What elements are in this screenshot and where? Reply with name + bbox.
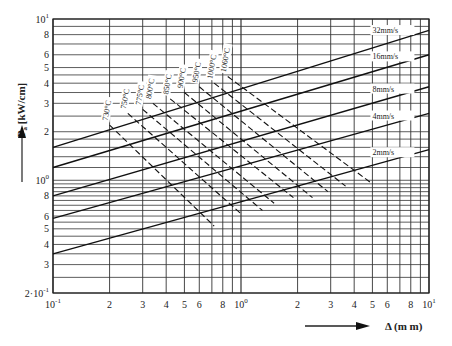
speed-label: 8mm/s xyxy=(372,85,394,94)
y-tick-label: 8 xyxy=(44,29,49,40)
series-labels: 32mm/s16mm/s8mm/s4mm/s2mm/s730°C750°C775… xyxy=(101,25,415,157)
y-tick-label: 101 xyxy=(36,12,50,25)
x-tick-label: 8 xyxy=(408,299,413,310)
x-tick-label: 2 xyxy=(107,299,112,310)
x-tick-label: 3 xyxy=(140,299,145,310)
x-axis-title: Δ (m m) xyxy=(385,320,423,333)
x-tick-label: 10-1 xyxy=(45,297,61,310)
speed-label: 32mm/s xyxy=(372,26,398,35)
y-tick-label: 2·10-1 xyxy=(25,286,50,299)
y-tick-label: 100 xyxy=(36,173,50,186)
x-tick-label: 4 xyxy=(164,299,169,310)
x-tick-labels: 10-1234568100234568101 xyxy=(45,297,436,310)
temperature-label: 730°C xyxy=(101,100,113,122)
series-line xyxy=(214,83,345,186)
x-tick-label: 3 xyxy=(328,299,333,310)
y-tick-label: 8 xyxy=(44,190,49,201)
speed-label: 16mm/s xyxy=(372,52,398,61)
x-tick-label: 6 xyxy=(385,299,390,310)
arrow-right-icon xyxy=(305,322,370,330)
speed-label: 4mm/s xyxy=(372,112,394,121)
y-tick-label: 4 xyxy=(44,239,49,250)
x-tick-label: 5 xyxy=(182,299,187,310)
temperature-label: 850°C xyxy=(161,73,173,95)
temperature-label: 800°C xyxy=(144,78,156,100)
y-tick-labels: 2·10-134568100234568101 xyxy=(25,12,50,299)
temperature-label: 950°C xyxy=(190,61,202,83)
x-tick-label: 4 xyxy=(352,299,357,310)
log-log-chart: 32mm/s16mm/s8mm/s4mm/s2mm/s730°C750°C775… xyxy=(0,0,452,346)
y-tick-label: 5 xyxy=(44,62,49,73)
x-tick-label: 6 xyxy=(197,299,202,310)
x-tick-label: 100 xyxy=(234,297,248,310)
y-tick-label: 3 xyxy=(44,98,49,109)
temperature-label: 750°C xyxy=(119,88,131,110)
y-tick-label: 2 xyxy=(44,126,49,137)
temperature-label: 900°C xyxy=(176,67,188,89)
x-tick-label: 8 xyxy=(220,299,225,310)
y-tick-label: 3 xyxy=(44,259,49,270)
y-tick-label: 5 xyxy=(44,223,49,234)
temperature-label: 1060°C xyxy=(219,47,232,73)
series-line xyxy=(153,103,274,203)
y-tick-label: 4 xyxy=(44,78,49,89)
temperature-label: 1000°C xyxy=(205,54,218,80)
y-tick-label: 6 xyxy=(44,49,49,60)
x-tick-label: 101 xyxy=(422,297,436,310)
y-tick-label: 6 xyxy=(44,211,49,222)
x-tick-label: 2 xyxy=(295,299,300,310)
speed-label: 2mm/s xyxy=(372,148,394,157)
y-axis-unit: [kW/cm] xyxy=(15,83,27,127)
x-tick-label: 5 xyxy=(370,299,375,310)
